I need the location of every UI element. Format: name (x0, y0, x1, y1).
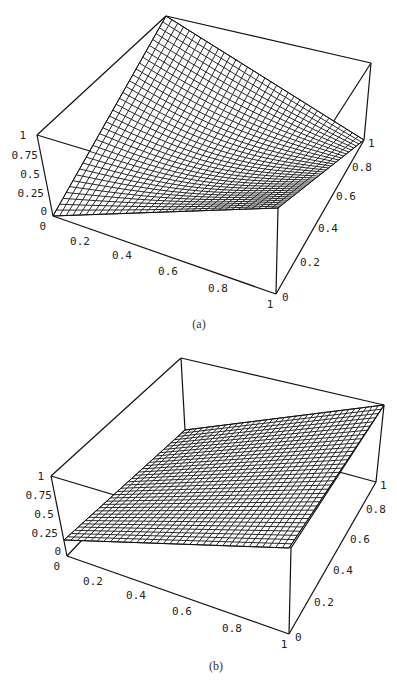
panel-a-z-axis: 1 0.75 0.5 0.25 0 (12, 129, 48, 218)
z-tick: 0.5 (34, 508, 54, 521)
y-tick: 0.6 (350, 533, 370, 546)
panel-b-caption: (b) (209, 659, 223, 673)
z-tick: 0.5 (20, 168, 40, 181)
x-tick: 0 (39, 220, 46, 233)
z-tick: 0.25 (32, 527, 59, 540)
z-tick: 0.75 (12, 149, 39, 162)
x-tick: 0.2 (83, 575, 103, 588)
x-tick: 0.6 (172, 605, 192, 618)
x-tick: 0 (53, 560, 60, 573)
panel-b-surface (64, 405, 384, 548)
panel-b-x-axis: 0 0.2 0.4 0.6 0.8 1 (53, 560, 287, 651)
y-tick: 0.2 (314, 596, 334, 609)
z-tick: 1 (37, 470, 44, 483)
x-tick: 0.2 (70, 235, 90, 248)
y-tick: 0 (282, 291, 289, 304)
y-tick: 0.2 (300, 256, 320, 269)
z-tick: 0.25 (18, 187, 45, 200)
y-tick: 1 (368, 137, 375, 150)
z-tick: 1 (19, 129, 26, 142)
x-tick: 1 (281, 638, 288, 651)
y-tick: 0 (295, 631, 302, 644)
x-tick: 0.8 (208, 282, 228, 295)
x-tick: 0.6 (158, 265, 178, 278)
y-tick: 0.4 (318, 222, 338, 235)
panel-a-x-axis: 0 0.2 0.4 0.6 0.8 1 (39, 220, 273, 311)
y-tick: 0.4 (333, 564, 353, 577)
panel-a-caption: (a) (192, 317, 205, 331)
z-tick: 0 (40, 205, 47, 218)
panel-b: 1 0.75 0.5 0.25 0 0 0.2 0.4 0.6 0.8 1 0 … (26, 358, 387, 673)
panel-a-surface (53, 16, 364, 216)
x-tick: 0.4 (126, 589, 146, 602)
x-tick: 1 (267, 298, 274, 311)
y-tick: 0.6 (336, 190, 356, 203)
z-tick: 0.75 (26, 489, 53, 502)
y-tick: 0.8 (352, 161, 372, 174)
panel-b-z-axis: 1 0.75 0.5 0.25 0 (26, 470, 62, 558)
panel-a: 1 0.75 0.5 0.25 0 0 0.2 0.4 0.6 0.8 1 0 … (12, 16, 375, 331)
x-tick: 0.4 (112, 249, 132, 262)
x-tick: 0.8 (222, 622, 242, 635)
y-tick: 1 (380, 479, 387, 492)
figure-canvas: 1 0.75 0.5 0.25 0 0 0.2 0.4 0.6 0.8 1 0 … (0, 0, 397, 686)
y-tick: 0.8 (366, 503, 386, 516)
z-tick: 0 (54, 545, 61, 558)
